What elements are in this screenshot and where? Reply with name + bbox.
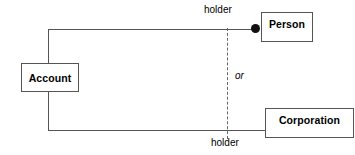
association-line-account-corporation [48, 130, 266, 131]
xor-constraint-dashed-line [227, 28, 228, 139]
association-role-label-holder-corporation: holder [211, 137, 239, 149]
xor-constraint-label: or [235, 70, 244, 82]
uml-class-diagram-canvas: holder holder or Account Person Corporat… [0, 0, 355, 155]
association-line-account-person [48, 29, 257, 30]
class-box-corporation[interactable]: Corporation [265, 108, 354, 138]
class-box-account[interactable]: Account [21, 63, 79, 92]
class-name-person: Person [269, 18, 305, 30]
association-role-label-holder-person: holder [204, 4, 232, 16]
class-box-person[interactable]: Person [261, 12, 313, 42]
class-name-account: Account [29, 72, 72, 84]
class-name-corporation: Corporation [279, 114, 340, 126]
association-end-dot-icon [251, 24, 260, 33]
